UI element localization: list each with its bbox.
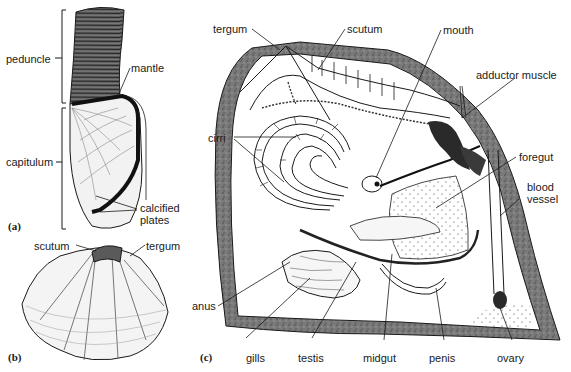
label-scutum-b: scutum (34, 240, 69, 252)
label-penis: penis (429, 352, 455, 364)
panel-b-drawing (22, 245, 168, 360)
label-testis: testis (298, 352, 324, 364)
barnacle-diagram (0, 0, 571, 372)
label-adductor-muscle: adductor muscle (476, 69, 557, 81)
label-foregut: foregut (519, 151, 553, 163)
label-anus: anus (192, 300, 216, 312)
label-ovary: ovary (497, 352, 524, 364)
label-blood-vessel-line2: vessel (527, 193, 558, 205)
label-scutum-c: scutum (347, 23, 382, 35)
label-mouth: mouth (443, 24, 474, 36)
label-calcified-plates-line2: plates (140, 214, 169, 226)
label-peduncle: peduncle (6, 53, 51, 65)
label-tergum-c: tergum (213, 23, 247, 35)
label-calcified-plates-line1: calcified (140, 202, 180, 214)
panel-a-tag: (a) (8, 220, 21, 232)
panel-b-tag: (b) (8, 351, 21, 363)
label-tergum-b: tergum (146, 240, 180, 252)
label-mantle: mantle (131, 62, 164, 74)
label-gills: gills (246, 352, 265, 364)
label-blood-vessel-line1: blood (527, 181, 554, 193)
label-midgut: midgut (363, 352, 396, 364)
panel-a-drawing (55, 7, 146, 229)
label-capitulum: capitulum (6, 156, 53, 168)
panel-c-tag: (c) (200, 351, 212, 363)
label-cirri: cirri (208, 132, 226, 144)
